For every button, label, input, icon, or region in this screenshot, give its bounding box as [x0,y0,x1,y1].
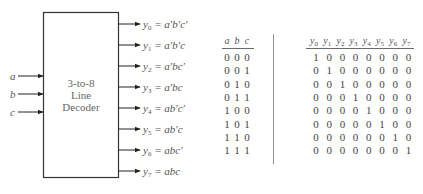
table-cell-input: 0 [234,51,240,63]
table-cell-input: 1 [244,144,250,156]
table-cell-output: 0 [326,78,332,90]
table-cell-output: 0 [313,118,319,130]
table-cell-output: 0 [406,78,412,90]
table-cell-output: 1 [313,51,319,63]
table-row: 11100000001 [224,144,411,156]
table-cell-output: 0 [366,118,372,130]
table-cell-input: 0 [244,104,250,116]
table-cell-input: 1 [234,78,240,90]
table-cell-output: 0 [392,51,398,63]
table-cell-input: 1 [224,131,230,143]
table-cell-input: 1 [224,104,230,116]
output-label-y7: y7 = abc [142,165,180,179]
table-cell-output: 0 [366,51,372,63]
table-cell-output: 0 [379,51,385,63]
table-cell-output: 0 [366,78,372,90]
table-row: 00101000000 [224,64,411,76]
table-cell-input: 1 [244,91,250,103]
table-cell-output: 0 [353,78,359,90]
table-cell-output: 0 [326,104,332,116]
table-header-y4: y4 [362,35,371,48]
table-cell-output: 0 [340,91,346,103]
table-cell-output: 0 [326,131,332,143]
table-cell-input: 0 [224,91,230,103]
table-cell-output: 1 [379,118,385,130]
table-cell-input: 1 [224,118,230,130]
truth-table: abcy0y1y2y3y4y5y6y7000100000000010100000… [222,34,414,164]
output-label-y4: y4 = ab′c′ [142,102,186,116]
decoder-title-line-3: Decoder [62,101,100,113]
table-cell-input: 0 [234,104,240,116]
table-cell-input: 1 [244,64,250,76]
table-cell-output: 0 [326,91,332,103]
table-cell-output: 0 [366,144,372,156]
table-cell-output: 0 [340,64,346,76]
table-cell-output: 0 [313,131,319,143]
table-cell-output: 0 [406,91,412,103]
table-cell-output: 0 [313,64,319,76]
table-cell-output: 0 [406,64,412,76]
table-cell-input: 0 [244,78,250,90]
table-cell-output: 0 [326,51,332,63]
table-cell-input: 0 [224,51,230,63]
table-cell-output: 0 [353,118,359,130]
table-cell-input: 0 [224,78,230,90]
table-cell-output: 0 [379,144,385,156]
input-label-a: a [10,70,16,82]
output-label-y6: y6 = abc′ [142,144,183,158]
table-row: 10100000100 [224,118,411,130]
table-row: 11000000010 [224,131,411,143]
table-cell-output: 0 [313,91,319,103]
table-header-a: a [225,35,230,46]
table-row: 00010000000 [224,51,411,63]
table-cell-output: 0 [353,104,359,116]
table-cell-output: 0 [406,131,412,143]
table-header-y3: y3 [349,35,358,48]
table-cell-input: 0 [234,64,240,76]
decoder-diagram: 3-to-8 Line Decoder abc y0 = a′b′c′y1 = … [0,0,423,194]
output-label-y1: y1 = a′b′c [142,39,185,53]
table-cell-input: 0 [234,118,240,130]
table-cell-output: 0 [326,118,332,130]
table-cell-output: 1 [326,64,332,76]
table-cell-output: 0 [326,144,332,156]
table-cell-output: 0 [353,144,359,156]
table-cell-output: 0 [392,91,398,103]
table-cell-output: 1 [353,91,359,103]
decoder-inputs: abc [10,70,43,118]
table-cell-output: 0 [340,144,346,156]
decoder-outputs: y0 = a′b′c′y1 = a′b′cy2 = a′bc′y3 = a′bc… [118,18,188,179]
table-cell-output: 1 [340,78,346,90]
table-cell-output: 0 [313,78,319,90]
table-cell-output: 1 [366,104,372,116]
table-cell-input: 1 [234,91,240,103]
decoder-title-line-2: Line [71,89,91,101]
table-cell-output: 0 [366,131,372,143]
table-cell-output: 0 [340,131,346,143]
table-cell-output: 0 [366,64,372,76]
table-cell-input: 1 [244,118,250,130]
table-cell-output: 0 [353,131,359,143]
table-row: 10000001000 [224,104,411,116]
table-cell-output: 0 [406,104,412,116]
table-cell-output: 0 [392,78,398,90]
table-cell-output: 0 [406,118,412,130]
output-label-y0: y0 = a′b′c′ [142,18,188,32]
table-cell-output: 0 [379,64,385,76]
input-label-b: b [10,88,16,100]
table-cell-input: 0 [244,51,250,63]
decoder-title-line-1: 3-to-8 [68,77,95,89]
table-cell-input: 1 [234,131,240,143]
table-header-y2: y2 [335,35,344,48]
table-row: 01100010000 [224,91,411,103]
table-cell-output: 0 [340,51,346,63]
table-cell-output: 0 [340,104,346,116]
table-cell-output: 0 [353,51,359,63]
table-cell-input: 0 [224,64,230,76]
input-label-c: c [10,106,15,118]
table-cell-input: 0 [244,131,250,143]
table-header-y0: y0 [309,35,318,48]
table-cell-output: 0 [392,118,398,130]
table-cell-output: 0 [379,91,385,103]
table-cell-output: 0 [366,91,372,103]
